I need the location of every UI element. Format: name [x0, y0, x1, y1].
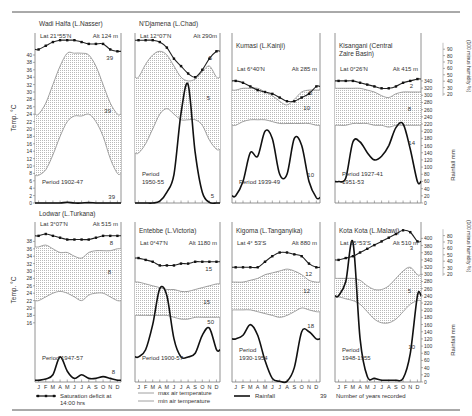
- humidity-axis-label: (100 minus humidity %): [466, 40, 472, 93]
- temp-tick-label: 22: [26, 119, 32, 125]
- rainfall-tick-label: 300: [424, 92, 433, 98]
- climate-panel: Kisangani (CentralZaire Basin)Lat 0°26'N…: [335, 33, 421, 203]
- month-label: N: [108, 384, 112, 390]
- years-recorded-temp: 39: [104, 108, 111, 114]
- temp-tick-label: 36: [26, 246, 32, 252]
- legend-years-symbol: 39: [320, 393, 327, 399]
- humidity-tick-label: 60: [447, 65, 453, 71]
- temp-tick-label: 16: [26, 320, 32, 326]
- latitude-label: Lat 21°55'N: [40, 33, 71, 39]
- temp-tick-label: 6: [29, 178, 32, 184]
- years-recorded-temp: 10: [303, 105, 310, 111]
- month-label: M: [150, 384, 155, 390]
- month-label: J: [271, 384, 274, 390]
- legend-years-recorded: Number of years recorded: [336, 393, 406, 399]
- station-name: Lodwar (L.Turkana): [39, 210, 95, 218]
- humidity-tick-label: 80: [447, 53, 453, 59]
- rainfall-tick-label: 60: [424, 357, 430, 363]
- saturation-deficit-line: [232, 252, 320, 268]
- rainfall-axis-label: Rainfall mm: [450, 324, 456, 356]
- altitude-label: Alt 290m: [193, 33, 217, 39]
- rainfall-tick-label: 180: [424, 135, 433, 141]
- rainfall-tick-label: 240: [424, 114, 433, 120]
- humidity-tick-label: 70: [447, 59, 453, 65]
- rainfall-tick-label: 120: [424, 336, 433, 342]
- period-label: Period 1947-57: [42, 355, 84, 361]
- temp-tick-label: 40: [26, 52, 32, 58]
- period-label: Period 1900-57: [142, 355, 184, 361]
- rainfall-tick-label: 220: [424, 300, 433, 306]
- rainfall-tick-label: 300: [424, 271, 433, 277]
- rainfall-tick-label: 120: [424, 157, 433, 163]
- temp-tick-label: 22: [26, 298, 32, 304]
- legend-saturation-deficit-time: 14:00 hrs: [60, 400, 85, 406]
- temp-axis-label: Temp. °C: [10, 276, 18, 303]
- month-label: A: [256, 384, 260, 390]
- latitude-label: Lat 0°47'N: [140, 240, 168, 246]
- period-label: 1930-1954: [239, 355, 268, 361]
- legend-rainfall: Rainfall: [255, 393, 275, 399]
- month-label: S: [94, 384, 98, 390]
- climate-panel: JFMAMJJASONDEntebbe (L.Victoria)Lat 0°47…: [135, 222, 220, 390]
- period-label: 1948-1955: [342, 355, 371, 361]
- latitude-label: Lat 6°40'N: [237, 66, 265, 72]
- month-label: F: [344, 384, 348, 390]
- month-label: A: [58, 384, 62, 390]
- years-recorded-rain: 50: [207, 319, 214, 325]
- years-recorded-rain: 10: [408, 344, 415, 350]
- temp-tick-label: 36: [26, 67, 32, 73]
- rainfall-tick-label: 220: [424, 121, 433, 127]
- rainfall-tick-label: 200: [424, 307, 433, 313]
- humidity-tick-label: 20: [447, 91, 453, 97]
- humidity-tick-label: 40: [447, 78, 453, 84]
- rainfall-tick-label: 320: [424, 85, 433, 91]
- month-label: J: [37, 384, 40, 390]
- temp-tick-label: 0: [29, 200, 32, 206]
- month-label: J: [278, 384, 281, 390]
- temp-tick-label: 34: [26, 253, 32, 259]
- month-label: O: [101, 384, 106, 390]
- legend-max-temp: max air temperature: [158, 390, 212, 396]
- humidity-tick-label: 20: [447, 271, 453, 277]
- temp-tick-label: 18: [26, 133, 32, 139]
- temp-tick-label: 32: [26, 261, 32, 267]
- station-name: Kota Kota (L.Malawi): [339, 227, 399, 235]
- month-label: J: [80, 384, 83, 390]
- month-label: M: [351, 384, 356, 390]
- climate-diagrams-figure: Wadi Halfa (L.Nasser)Lat 21°55'NAlt 124 …: [0, 0, 472, 416]
- rainfall-tick-label: 260: [424, 107, 433, 113]
- temp-tick-label: 24: [26, 290, 32, 296]
- rainfall-tick-label: 100: [424, 343, 433, 349]
- month-label: D: [115, 384, 119, 390]
- rainfall-tick-label: 0: [424, 200, 427, 206]
- rainfall-tick-label: 100: [424, 164, 433, 170]
- rainfall-tick-label: 140: [424, 150, 433, 156]
- temp-tick-label: 12: [26, 156, 32, 162]
- legend-min-temp: min air temperature: [158, 398, 211, 404]
- temperature-range-band: [335, 267, 421, 323]
- month-label: S: [394, 384, 398, 390]
- years-recorded-sat: 39: [106, 55, 113, 61]
- rainfall-tick-label: 60: [424, 178, 430, 184]
- month-label: M: [51, 384, 56, 390]
- period-label: Period 1927-41: [342, 171, 384, 177]
- temp-tick-label: 16: [26, 141, 32, 147]
- panels-group: Wadi Halfa (L.Nasser)Lat 21°55'NAlt 124 …: [35, 20, 421, 390]
- years-recorded-sat: 12: [305, 271, 312, 277]
- years-recorded-rain: 18: [307, 323, 314, 329]
- temp-tick-label: 24: [26, 111, 32, 117]
- rainfall-tick-label: 280: [424, 278, 433, 284]
- month-label: A: [387, 384, 391, 390]
- humidity-tick-label: 50: [447, 252, 453, 258]
- rainfall-tick-label: 20: [424, 193, 430, 199]
- years-recorded-temp: 15: [203, 299, 210, 305]
- month-label: A: [358, 384, 362, 390]
- station-name: Entebbe (L.Victoria): [139, 227, 196, 235]
- temp-tick-label: 38: [26, 59, 32, 65]
- humidity-tick-label: 50: [447, 72, 453, 78]
- climate-panel: Wadi Halfa (L.Nasser)Lat 21°55'NAlt 124 …: [35, 20, 121, 203]
- altitude-label: Alt 415 m: [393, 66, 418, 72]
- altitude-label: Alt 285 m: [292, 66, 317, 72]
- rainfall-axis-label: Rainfall mm: [450, 149, 456, 181]
- rainfall-tick-label: 340: [424, 257, 433, 263]
